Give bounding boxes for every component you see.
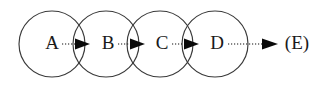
terminal-label-e: (E) bbox=[285, 32, 309, 54]
chain-diagram-canvas: A B C D (E) bbox=[0, 0, 327, 88]
link-c-to-d-arrowhead-icon bbox=[184, 39, 199, 50]
link-a-to-b-arrowhead-icon bbox=[75, 39, 90, 50]
node-label-b: B bbox=[102, 32, 115, 53]
link-b-to-c bbox=[118, 39, 145, 50]
link-d-to-e bbox=[228, 39, 278, 50]
node-label-a: A bbox=[45, 32, 59, 53]
link-c-to-d bbox=[172, 39, 199, 50]
link-b-to-c-arrowhead-icon bbox=[130, 39, 145, 50]
link-d-to-e-arrowhead-icon bbox=[262, 39, 278, 50]
chain-diagram: A B C D (E) bbox=[0, 0, 327, 88]
node-label-c: C bbox=[156, 32, 169, 53]
link-a-to-b bbox=[62, 39, 90, 50]
node-label-d: D bbox=[210, 32, 224, 53]
